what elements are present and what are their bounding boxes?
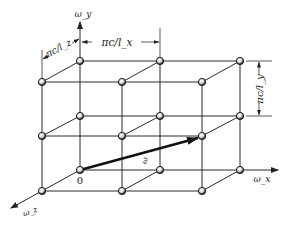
lattice-node	[118, 78, 125, 85]
y-spacing-label: πc/l_y	[254, 74, 266, 105]
omega-z-label: ω_z	[22, 205, 40, 219]
lattice-node	[198, 78, 205, 85]
omega-vector-arrow	[80, 138, 198, 170]
omega-vector-label: ω	[139, 156, 150, 165]
x-spacing-label: πc/l_x	[101, 36, 133, 49]
lattice-node	[118, 187, 125, 194]
lattice-node	[118, 132, 125, 139]
lattice-node	[156, 166, 163, 173]
lattice-node	[76, 112, 83, 119]
lattice-node	[198, 132, 205, 139]
z-spacing-label: πc/l_z	[43, 36, 75, 60]
lattice-node	[156, 112, 163, 119]
origin-label: 0	[77, 175, 83, 186]
lattice-node	[76, 57, 83, 64]
lattice-node	[236, 166, 243, 173]
omega-y-label: ω_y	[75, 9, 93, 20]
lattice-node	[156, 57, 163, 64]
lattice-node	[38, 78, 45, 85]
lattice-depth-lines	[42, 61, 240, 191]
omega-x-label: ω_x	[254, 174, 271, 185]
dimension-x-spacing: πc/l_x	[82, 28, 160, 57]
lattice-node	[198, 187, 205, 194]
lattice-node	[38, 187, 45, 194]
origin-node	[76, 166, 83, 173]
lattice-node	[236, 112, 243, 119]
mode-lattice-diagram: πc/l_x πc/l_z πc/l_y ω_y ω_x ω_z 0 ω	[0, 0, 295, 229]
dimension-y-spacing: πc/l_y	[246, 61, 272, 116]
lattice-node	[236, 57, 243, 64]
lattice-node	[38, 132, 45, 139]
